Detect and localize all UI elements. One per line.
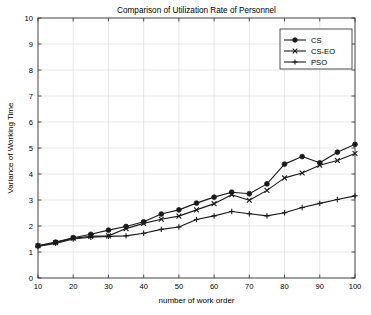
marker-circle-icon	[300, 154, 305, 159]
legend-label: PSO	[311, 58, 327, 67]
chart-figure: 012345678910102030405060708090100 Compar…	[0, 0, 371, 315]
marker-circle-icon	[265, 181, 270, 186]
y-tick-label: 2	[29, 222, 33, 231]
marker-circle-icon	[194, 201, 199, 206]
x-tick-label: 70	[245, 282, 253, 291]
marker-circle-icon	[176, 207, 181, 212]
marker-circle-icon	[159, 212, 164, 217]
y-tick-label: 5	[29, 144, 33, 153]
chart-canvas: 012345678910102030405060708090100 Compar…	[0, 0, 371, 315]
y-tick-label: 0	[29, 274, 33, 283]
y-tick-label: 8	[29, 66, 33, 75]
y-tick-label: 7	[29, 92, 33, 101]
x-tick-label: 80	[280, 282, 288, 291]
y-tick-label: 4	[29, 170, 33, 179]
y-tick-label: 10	[25, 14, 33, 23]
marker-circle-icon	[106, 228, 111, 233]
y-tick-label: 9	[29, 40, 33, 49]
x-tick-label: 30	[104, 282, 112, 291]
x-tick-label: 20	[69, 282, 77, 291]
x-tick-label: 50	[175, 282, 183, 291]
x-tick-label: 40	[139, 282, 147, 291]
y-tick-label: 3	[29, 196, 33, 205]
x-tick-label: 60	[210, 282, 218, 291]
marker-circle-icon	[293, 38, 298, 43]
x-tick-label: 100	[349, 282, 362, 291]
y-axis-label: Variance of Working Time	[6, 102, 15, 193]
x-tick-label: 10	[34, 282, 42, 291]
legend-label: CS-EO	[311, 47, 335, 56]
marker-circle-icon	[212, 195, 217, 200]
y-tick-label: 1	[29, 248, 33, 257]
marker-circle-icon	[335, 150, 340, 155]
chart-title: Comparison of Utilization Rate of Person…	[117, 6, 276, 15]
x-axis-label: number of work order	[158, 296, 234, 305]
legend-label: CS	[311, 36, 322, 45]
marker-circle-icon	[353, 142, 358, 147]
marker-circle-icon	[282, 162, 287, 167]
y-tick-label: 6	[29, 118, 33, 127]
marker-circle-icon	[247, 191, 252, 196]
chart-legend: CSCS-EOPSO	[280, 29, 352, 69]
x-tick-label: 90	[316, 282, 324, 291]
